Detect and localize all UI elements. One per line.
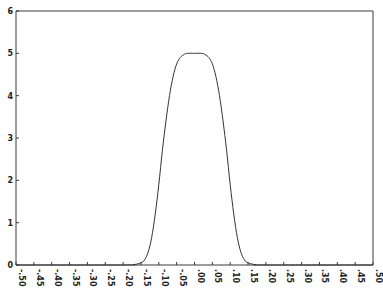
x-tick-label: .05 <box>213 269 222 284</box>
x-tick-label: .10 <box>231 269 240 284</box>
series-line-curve <box>16 53 373 265</box>
y-axis: 0123456 <box>7 7 19 270</box>
y-tick-label: 5 <box>7 49 13 58</box>
x-tick-label: .25 <box>285 269 294 284</box>
x-tick-label: -.45 <box>35 269 44 287</box>
x-tick-label: .15 <box>249 269 258 284</box>
y-tick-label: 3 <box>7 134 13 143</box>
series-layer <box>16 53 373 265</box>
x-tick-label: .30 <box>303 269 312 284</box>
x-tick-label: -.25 <box>106 269 115 287</box>
x-tick-label: .20 <box>267 269 276 284</box>
plot-frame <box>16 11 373 265</box>
y-tick-label: 2 <box>7 176 13 185</box>
x-axis: -.50-.45-.40-.35-.30-.25-.20-.15-.10-.05… <box>16 262 383 287</box>
x-tick-label: .45 <box>356 269 365 284</box>
x-tick-label: .35 <box>320 269 329 284</box>
x-tick-label: -.40 <box>53 269 62 287</box>
x-tick-label: -.20 <box>124 269 133 287</box>
x-tick-label: -.10 <box>160 269 169 287</box>
x-tick-label: .50 <box>374 269 383 284</box>
y-tick-label: 6 <box>7 7 13 16</box>
x-tick-label: .00 <box>196 269 205 284</box>
x-tick-label: .40 <box>338 269 347 284</box>
y-tick-label: 4 <box>7 92 13 101</box>
x-tick-label: -.30 <box>88 269 97 287</box>
plot-border <box>16 11 373 265</box>
y-tick-label: 0 <box>7 261 13 270</box>
x-tick-label: -.05 <box>178 269 187 287</box>
x-tick-label: -.35 <box>71 269 80 287</box>
chart: 0123456 -.50-.45-.40-.35-.30-.25-.20-.15… <box>0 0 383 299</box>
y-tick-label: 1 <box>7 219 13 228</box>
x-tick-label: -.50 <box>17 269 26 287</box>
x-tick-label: -.15 <box>142 269 151 287</box>
